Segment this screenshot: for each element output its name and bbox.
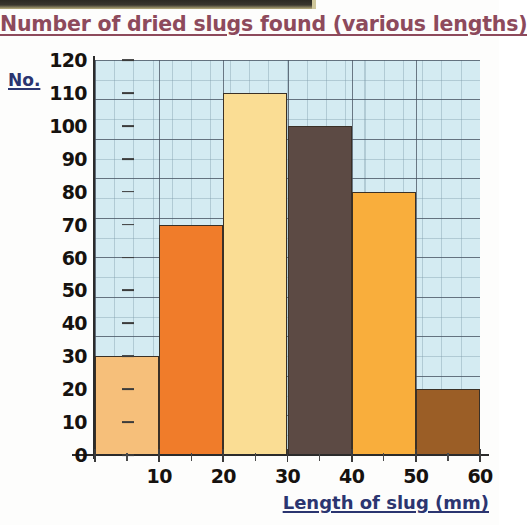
x-axis-tick-mark <box>287 449 289 462</box>
x-axis-tick-mark <box>415 449 417 462</box>
x-axis-tick-label: 20 <box>193 465 253 487</box>
x-axis-origin-mark <box>94 449 96 462</box>
x-axis-tick-label: 10 <box>129 465 189 487</box>
x-axis-tick-mark <box>351 449 353 462</box>
x-axis-minor-tick-mark <box>191 453 192 461</box>
x-axis-minor-tick-mark <box>126 453 127 461</box>
x-axis-minor-tick-mark <box>319 453 320 461</box>
x-axis-tick-label: 60 <box>450 465 510 487</box>
x-axis-tick-mark <box>222 449 224 462</box>
y-axis-title: No. <box>8 70 40 90</box>
x-axis-tick-label: 40 <box>322 465 382 487</box>
x-axis-minor-tick-mark <box>447 453 448 461</box>
x-axis-tick-label: 30 <box>258 465 318 487</box>
x-axis-title: Length of slug (mm) <box>283 492 489 513</box>
x-axis-tick-mark <box>479 449 481 462</box>
x-axis-tick-label: 50 <box>386 465 446 487</box>
x-axis-minor-tick-mark <box>255 453 256 461</box>
x-axis-minor-tick-mark <box>383 453 384 461</box>
x-axis-tick-mark <box>158 449 160 462</box>
